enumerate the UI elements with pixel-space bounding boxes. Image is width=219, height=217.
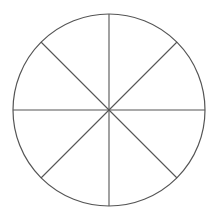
divided-circle-diagram [0,0,219,217]
